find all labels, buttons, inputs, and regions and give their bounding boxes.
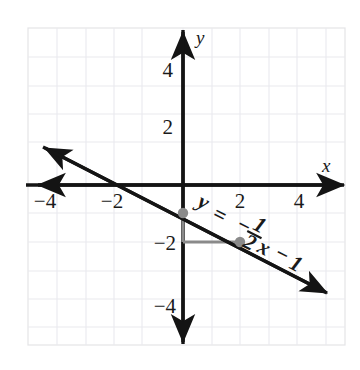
- ytick-label-minus2: −2: [154, 231, 176, 255]
- xtick-label-4: 4: [294, 189, 305, 213]
- xtick-label-minus4: −4: [34, 189, 57, 213]
- figure-canvas: −4 −2 2 4 4 2 −2 −4 y x y = − 1 2 x − 1: [0, 0, 360, 370]
- xtick-label-minus2: −2: [101, 189, 123, 213]
- ytick-label-4: 4: [163, 58, 174, 82]
- xtick-label-2: 2: [235, 189, 246, 213]
- coordinate-plane-svg: −4 −2 2 4 4 2 −2 −4 y x y = − 1 2 x − 1: [0, 0, 360, 370]
- ytick-label-2: 2: [163, 115, 174, 139]
- x-axis-name: x: [321, 155, 331, 176]
- point-y-intercept: [178, 208, 188, 218]
- y-axis-name: y: [194, 27, 205, 48]
- ytick-label-minus4: −4: [154, 294, 177, 318]
